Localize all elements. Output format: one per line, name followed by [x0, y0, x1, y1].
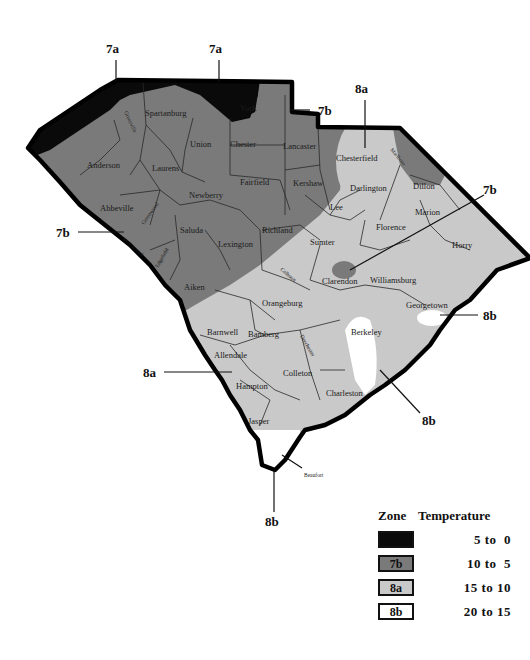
- county-label-marion: Marion: [415, 207, 441, 217]
- county-label-kershaw: Kershaw: [293, 178, 324, 188]
- legend-header-temperature: Temperature: [418, 508, 490, 524]
- callout-8b-beaufort: 8b: [265, 514, 279, 529]
- county-label-beaufort: Beaufort: [304, 472, 324, 478]
- county-label-york: York: [240, 103, 257, 113]
- county-label-georgetown: Georgetown: [406, 300, 449, 310]
- legend: Zone Temperature 5 to 0 7b 10 to 5 8a 15…: [378, 508, 528, 620]
- county-label-darlington: Darlington: [350, 183, 388, 193]
- county-label-bamberg: Bamberg: [248, 329, 280, 339]
- legend-row-8a: 8a 15 to 10: [378, 579, 528, 596]
- county-label-florence: Florence: [376, 222, 406, 232]
- county-label-orangeburg: Orangeburg: [262, 298, 303, 308]
- county-label-saluda: Saluda: [180, 225, 203, 235]
- county-label-richland: Richland: [262, 225, 293, 235]
- callout-7b-mccormick: 7b: [56, 225, 70, 240]
- county-label-sumter: Sumter: [310, 237, 335, 247]
- callout-7a-west: 7a: [106, 41, 120, 56]
- callout-8b-charleston: 8b: [422, 413, 436, 428]
- callout-7b-york: 7b: [318, 103, 332, 118]
- callout-7a-york: 7a: [209, 41, 223, 56]
- legend-swatch-8b: 8b: [378, 603, 414, 620]
- county-label-hampton: Hampton: [236, 381, 268, 391]
- county-label-horry: Horry: [452, 240, 473, 250]
- county-label-lancaster: Lancaster: [283, 141, 316, 151]
- county-label-lexington: Lexington: [218, 239, 254, 249]
- zone-8b-beaufort: [240, 430, 300, 480]
- legend-swatch-8a: 8a: [378, 579, 414, 596]
- legend-temp-7a: 5 to 0: [426, 532, 511, 548]
- legend-row-8b: 8b 20 to 15: [378, 603, 528, 620]
- callout-8b-georgetown: 8b: [483, 308, 497, 323]
- legend-row-7b: 7b 10 to 5: [378, 555, 528, 572]
- county-label-chester: Chester: [230, 139, 256, 149]
- legend-row-7a: 5 to 0: [378, 531, 528, 548]
- county-label-chesterfield: Chesterfield: [336, 153, 378, 163]
- county-label-newberry: Newberry: [189, 190, 224, 200]
- legend-temp-7b: 10 to 5: [426, 556, 511, 572]
- county-label-spartanburg: Spartanburg: [145, 108, 187, 118]
- legend-header-zone: Zone: [378, 508, 418, 524]
- callout-7b-clarendon: 7b: [483, 182, 497, 197]
- county-label-lee: Lee: [330, 202, 343, 212]
- county-label-clarendon: Clarendon: [322, 276, 358, 286]
- county-label-charleston: Charleston: [326, 388, 364, 398]
- county-label-aiken: Aiken: [184, 282, 206, 292]
- legend-header: Zone Temperature: [378, 508, 528, 524]
- county-label-colleton: Colleton: [283, 368, 313, 378]
- legend-swatch-7b: 7b: [378, 555, 414, 572]
- callout-8a-allendale: 8a: [143, 365, 157, 380]
- county-label-allendale: Allendale: [214, 350, 247, 360]
- county-label-jasper: Jasper: [248, 416, 269, 426]
- county-label-anderson: Anderson: [87, 160, 121, 170]
- callout-8a-chesterfield: 8a: [355, 81, 369, 96]
- county-label-union: Union: [190, 139, 212, 149]
- county-label-berkeley: Berkeley: [351, 327, 382, 337]
- county-label-dillon: Dillon: [413, 181, 435, 191]
- county-label-abbeville: Abbeville: [100, 203, 134, 213]
- county-label-williamsburg: Williamsburg: [370, 275, 417, 285]
- county-label-laurens: Laurens: [152, 163, 179, 173]
- legend-temp-8b: 20 to 15: [426, 604, 511, 620]
- legend-temp-8a: 15 to 10: [426, 580, 511, 596]
- county-label-barnwell: Barnwell: [207, 327, 239, 337]
- county-label-fairfield: Fairfield: [240, 177, 270, 187]
- legend-swatch-7a: [378, 531, 414, 548]
